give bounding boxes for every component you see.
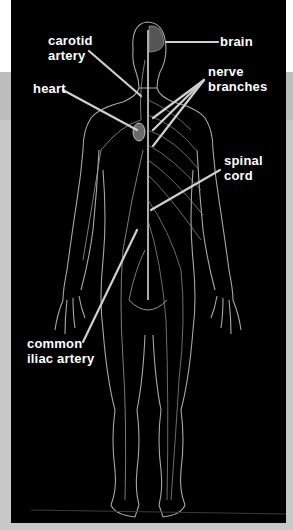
ground-line — [31, 510, 286, 514]
label-nerve-line1: nerve — [208, 64, 267, 79]
label-carotid-line1: carotid — [48, 33, 93, 48]
waist-left — [101, 170, 105, 330]
foot-right — [159, 505, 185, 517]
leader-heart — [63, 90, 137, 130]
hand-right — [211, 296, 241, 334]
label-heart: heart — [33, 81, 66, 96]
diagram-panel: carotid artery brain nerve branches hear… — [11, 0, 286, 523]
label-common-iliac-artery: common iliac artery — [27, 336, 94, 366]
inner-arm-left — [81, 150, 99, 290]
label-carotid-line2: artery — [48, 48, 93, 63]
label-nerve-branches: nerve branches — [208, 64, 267, 94]
hand-left — [55, 296, 85, 334]
label-spinal-line2: cord — [224, 168, 263, 183]
leg-right-outer — [181, 330, 194, 505]
pelvis-shape — [129, 300, 167, 310]
leg-right-inner — [153, 335, 162, 505]
label-carotid-artery: carotid artery — [48, 33, 93, 63]
leader-common-iliac-artery — [83, 230, 137, 342]
torso-right-outline — [157, 88, 233, 300]
label-spinal-cord: spinal cord — [224, 153, 263, 183]
label-brain: brain — [220, 34, 253, 49]
leg-left-outer — [103, 330, 116, 505]
heart-shape — [133, 123, 145, 141]
label-iliac-line1: common — [27, 336, 94, 351]
torso-left-outline — [63, 88, 139, 300]
leader-nerve-branches-2 — [153, 80, 204, 130]
waist-right — [191, 170, 195, 330]
body-outline — [31, 22, 286, 517]
label-spinal-line1: spinal — [224, 153, 263, 168]
inner-arm-right — [197, 150, 215, 290]
label-iliac-line2: iliac artery — [27, 351, 94, 366]
leader-spinal-cord — [151, 170, 220, 210]
label-nerve-line2: branches — [208, 79, 267, 94]
leg-left-inner — [136, 335, 145, 505]
